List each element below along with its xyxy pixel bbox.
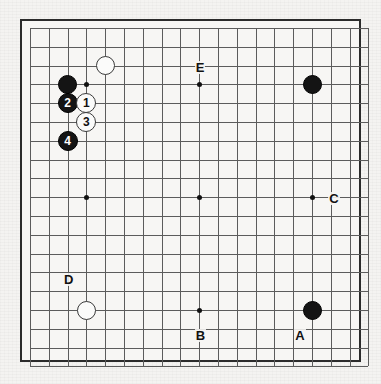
point-label-c: C <box>328 192 339 205</box>
star-point-upper-left <box>84 82 89 87</box>
grid-line-vertical-12 <box>256 28 257 366</box>
grid-line-vertical-18 <box>368 28 369 366</box>
numbered-stone-4[interactable]: 4 <box>58 131 78 151</box>
star-point-tengen <box>197 195 202 200</box>
move-number: 3 <box>83 116 90 128</box>
grid-line-horizontal-18 <box>30 366 368 367</box>
grid-line-horizontal-12 <box>30 254 368 255</box>
point-label-b: B <box>195 329 206 342</box>
go-board[interactable]: 2134 ECDBA <box>20 19 361 362</box>
go-board-figure: 2134 ECDBA <box>0 0 381 384</box>
black-stone-upper-right[interactable] <box>303 75 322 94</box>
move-number: 4 <box>64 135 71 147</box>
move-number: 2 <box>64 97 71 109</box>
star-point-lower-middle <box>197 308 202 313</box>
grid-line-vertical-13 <box>274 28 275 366</box>
grid-line-horizontal-13 <box>30 272 368 273</box>
white-stone-lower-left[interactable] <box>77 301 96 320</box>
grid-line-vertical-14 <box>293 28 294 366</box>
grid-line-vertical-10 <box>218 28 219 366</box>
grid-line-horizontal-11 <box>30 235 368 236</box>
grid-line-horizontal-17 <box>30 348 368 349</box>
move-number: 1 <box>83 97 90 109</box>
star-point-middle-right <box>310 195 315 200</box>
star-point-upper-middle <box>197 82 202 87</box>
numbered-stone-2[interactable]: 2 <box>58 93 78 113</box>
point-label-a: A <box>294 329 305 342</box>
point-label-d: D <box>63 273 74 286</box>
grid-line-vertical-11 <box>237 28 238 366</box>
grid-line-horizontal-10 <box>30 216 368 217</box>
black-stone-upper-left-corner[interactable] <box>58 75 77 94</box>
grid-line-horizontal-14 <box>30 291 368 292</box>
point-label-e: E <box>195 61 206 74</box>
white-stone-upper-left-area[interactable] <box>96 56 115 75</box>
black-stone-lower-right[interactable] <box>303 301 322 320</box>
grid-line-vertical-17 <box>350 28 351 366</box>
star-point-middle-left <box>84 195 89 200</box>
